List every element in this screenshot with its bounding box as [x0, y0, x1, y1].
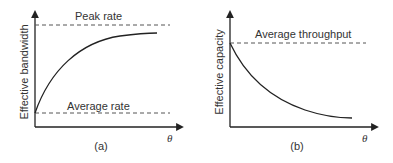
x-axis-label-a: θ: [167, 132, 173, 144]
panel-a: Peak rate Average rate Effective bandwid…: [18, 10, 180, 152]
y-axis-label-a: Effective bandwidth: [18, 24, 30, 119]
panel-b: Average throughput Effective capacity θ …: [213, 14, 375, 152]
diagram-canvas: Peak rate Average rate Effective bandwid…: [0, 0, 393, 163]
average-throughput-label: Average throughput: [255, 28, 351, 40]
caption-b: (b): [290, 140, 303, 152]
y-axis-label-b: Effective capacity: [213, 29, 225, 115]
x-axis-label-b: θ: [362, 132, 368, 144]
effective-capacity-curve: [230, 43, 352, 118]
caption-a: (a): [94, 140, 107, 152]
peak-rate-label: Peak rate: [75, 10, 122, 22]
average-rate-label: Average rate: [67, 100, 130, 112]
